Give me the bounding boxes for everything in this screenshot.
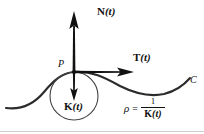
denominator-symbol: K [144,108,152,119]
rho-symbol: ρ [124,102,129,114]
reciprocal-curvature-fraction: 1 K(t) [141,97,165,119]
tangent-vector-arrow [74,67,134,76]
equals-sign: = [132,103,138,114]
normal-vector-arrow [69,11,78,72]
radius-of-curvature-equation: ρ = 1 K(t) [124,97,165,119]
curvature-vector-symbol: K [64,100,73,112]
point-p-marker [72,70,76,74]
normal-vector-label: N(t) [97,6,115,17]
curvature-vector-label: K(t) [64,101,83,112]
curve-c-label: C [190,75,197,85]
curvature-vector-argument: (t) [73,100,83,112]
curvature-diagram: N(t) T(t) K(t) P C ρ = 1 K(t) [0,0,204,134]
fraction-denominator: K(t) [142,108,163,119]
point-p-label: P [58,59,64,69]
fraction-numerator: 1 [149,97,158,107]
curvature-vector-arrow [70,72,78,101]
tangent-vector-argument: (t) [140,51,150,63]
diagram-canvas [0,0,204,134]
denominator-argument: (t) [152,108,161,119]
tangent-vector-label: T(t) [133,52,151,63]
normal-vector-symbol: N [97,5,105,17]
normal-vector-argument: (t) [105,5,115,17]
